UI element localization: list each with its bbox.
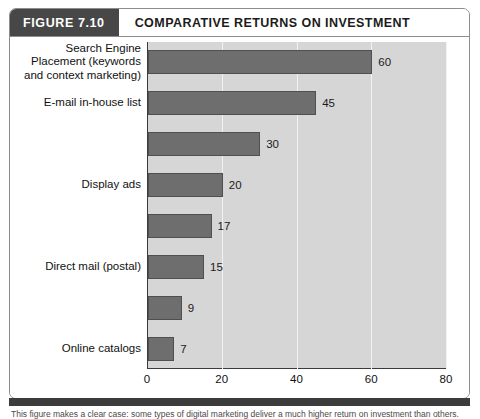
bar-value-label: 17 bbox=[218, 220, 231, 232]
chart-body: Search Engine Placement (keywords and co… bbox=[10, 37, 469, 398]
y-category-label: E-mail in-house list bbox=[44, 96, 141, 110]
bar-value-label: 7 bbox=[180, 343, 186, 355]
bar-value-label: 45 bbox=[322, 97, 335, 109]
x-tick-label: 40 bbox=[290, 373, 303, 385]
figure-title: COMPARATIVE RETURNS ON INVESTMENT bbox=[119, 9, 469, 36]
figure-caption: This figure makes a clear case: some typ… bbox=[11, 409, 469, 419]
bar-row: 45 bbox=[148, 91, 446, 115]
figure-header: FIGURE 7.10 COMPARATIVE RETURNS ON INVES… bbox=[10, 9, 469, 37]
bar-row: 15 bbox=[148, 255, 446, 279]
bar-row: 60 bbox=[148, 50, 446, 74]
bar bbox=[148, 50, 372, 74]
y-category-label: Search Engine Placement (keywords and co… bbox=[24, 42, 141, 83]
figure-frame: FIGURE 7.10 COMPARATIVE RETURNS ON INVES… bbox=[9, 8, 470, 399]
bar-value-label: 30 bbox=[266, 138, 279, 150]
bar-row: 9 bbox=[148, 296, 446, 320]
bar-value-label: 15 bbox=[210, 261, 223, 273]
bar bbox=[148, 337, 174, 361]
bar-value-label: 20 bbox=[229, 179, 242, 191]
bottom-divider-rule bbox=[9, 398, 470, 406]
bar-value-label: 60 bbox=[378, 56, 391, 68]
bar bbox=[148, 214, 212, 238]
plot-area: 60453020171597 bbox=[147, 42, 447, 369]
figure-number-tag: FIGURE 7.10 bbox=[10, 9, 119, 36]
x-tick-label: 60 bbox=[365, 373, 378, 385]
y-category-label: Online catalogs bbox=[62, 342, 141, 356]
bar-value-label: 9 bbox=[188, 302, 194, 314]
x-tick-label: 0 bbox=[144, 373, 150, 385]
bar-row: 30 bbox=[148, 132, 446, 156]
bar bbox=[148, 255, 204, 279]
bar-row: 17 bbox=[148, 214, 446, 238]
bar bbox=[148, 296, 182, 320]
y-category-label: Display ads bbox=[82, 178, 141, 192]
x-axis-tick-labels: 020406080 bbox=[147, 373, 447, 393]
bar-row: 20 bbox=[148, 173, 446, 197]
bar bbox=[148, 91, 316, 115]
bars-layer: 60453020171597 bbox=[147, 42, 447, 369]
x-tick-label: 20 bbox=[215, 373, 228, 385]
bar-row: 7 bbox=[148, 337, 446, 361]
y-axis-category-labels: Search Engine Placement (keywords and co… bbox=[10, 42, 141, 369]
figure-root: FIGURE 7.10 COMPARATIVE RETURNS ON INVES… bbox=[0, 0, 480, 419]
y-category-label: Direct mail (postal) bbox=[45, 260, 141, 274]
x-tick-label: 80 bbox=[440, 373, 453, 385]
bar bbox=[148, 132, 260, 156]
bar bbox=[148, 173, 223, 197]
